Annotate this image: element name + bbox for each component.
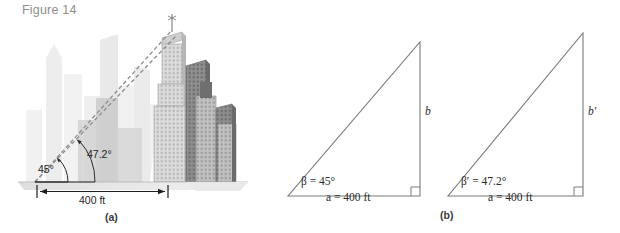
angle-label-47: 47.2° <box>87 148 112 160</box>
panel-b-caption: (b) <box>440 209 453 221</box>
triangle-two-height-label: b′ <box>588 105 596 117</box>
triangle-one-height-label: b <box>425 105 431 117</box>
right-blocks <box>216 104 236 182</box>
triangles-group <box>288 33 583 196</box>
triangle-one-angle-label: β = 45° <box>301 175 335 187</box>
figure-root: Figure 14 <box>0 0 620 233</box>
triangle-one <box>288 42 420 196</box>
mid-tower-1 <box>196 82 216 182</box>
triangle-one-base-label: a = 400 ft <box>326 191 371 203</box>
triangle-two <box>448 33 583 196</box>
triangle-two-angle-label: β′ = 47.2° <box>461 175 506 187</box>
triangle-two-base-label: a = 400 ft <box>488 191 533 203</box>
main-tower <box>154 14 186 182</box>
baseline-distance-label: 400 ft <box>79 194 105 206</box>
angle-label-45: 45° <box>38 163 54 175</box>
panel-a-caption: (a) <box>105 211 118 223</box>
